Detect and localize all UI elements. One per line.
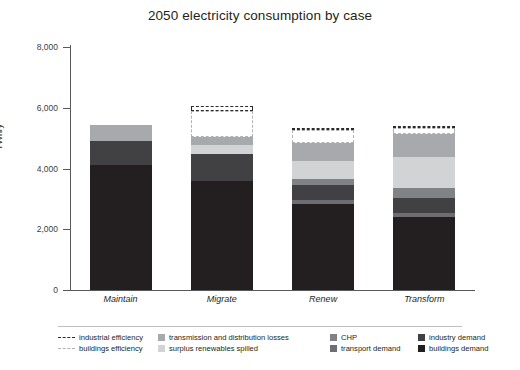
bar-segment[interactable]: [292, 161, 354, 179]
bar-outline-segment[interactable]: [292, 128, 354, 130]
bar-group[interactable]: [292, 47, 354, 290]
bar-outline-segment[interactable]: [393, 128, 455, 133]
y-tick-label: 8,000: [12, 42, 58, 52]
legend-item[interactable]: CHP: [330, 334, 357, 342]
x-category-label: Renew: [292, 294, 354, 304]
legend-swatch-icon: [418, 345, 425, 352]
legend-swatch-icon: [330, 334, 337, 341]
x-category-label: Migrate: [191, 294, 253, 304]
legend-label: buildings demand: [429, 345, 489, 353]
bar-segment[interactable]: [292, 200, 354, 204]
bar-outline-segment[interactable]: [191, 106, 253, 111]
y-tick-mark: [63, 47, 70, 48]
x-category-label: Maintain: [90, 294, 152, 304]
y-tick-mark: [63, 290, 70, 291]
y-tick-mark: [63, 169, 70, 170]
legend-swatch-icon: [158, 334, 165, 341]
bar-segment[interactable]: [292, 185, 354, 201]
bar-segment[interactable]: [393, 217, 455, 290]
y-tick-label: 0: [12, 285, 58, 295]
bar-outline-segment[interactable]: [191, 111, 253, 137]
bar-segment[interactable]: [393, 188, 455, 198]
legend-label: buildings efficiency: [79, 345, 143, 353]
y-tick-label: 6,000: [12, 103, 58, 113]
bar-group[interactable]: [393, 47, 455, 290]
legend-item[interactable]: transport demand: [330, 345, 401, 353]
bar-segment[interactable]: [90, 141, 152, 165]
y-tick-label: 2,000: [12, 224, 58, 234]
bar-segment[interactable]: [191, 137, 253, 145]
bar-segment[interactable]: [191, 145, 253, 154]
legend-item[interactable]: surplus renewables spilled: [158, 345, 258, 353]
bar-segment[interactable]: [292, 143, 354, 161]
bar-segment[interactable]: [90, 125, 152, 140]
legend-label: transport demand: [341, 345, 401, 353]
bar-segment[interactable]: [393, 157, 455, 188]
bar-group[interactable]: [90, 47, 152, 290]
bar-segment[interactable]: [191, 181, 253, 290]
legend-swatch-icon: [418, 334, 425, 341]
bar-segment[interactable]: [191, 154, 253, 181]
y-tick-mark: [63, 108, 70, 109]
chart-container: 2050 electricity consumption by case TWh…: [0, 0, 520, 370]
bar-segment[interactable]: [292, 204, 354, 290]
plot-area: [70, 47, 475, 290]
legend-item[interactable]: buildings demand: [418, 345, 489, 353]
caption-strip: [0, 360, 520, 370]
y-tick-mark: [63, 229, 70, 230]
x-axis-line: [70, 290, 475, 291]
y-axis-tick-labels: 02,0004,0006,0008,000: [8, 0, 58, 370]
legend-label: transmission and distribution losses: [169, 334, 289, 342]
bar-segment[interactable]: [393, 213, 455, 217]
legend-item[interactable]: transmission and distribution losses: [158, 334, 289, 342]
legend-dashed-line-icon: [58, 348, 75, 349]
legend-label: industry demand: [429, 334, 485, 342]
legend-item[interactable]: buildings efficiency: [58, 345, 143, 353]
legend-label: CHP: [341, 334, 357, 342]
bar-group[interactable]: [191, 47, 253, 290]
bar-segment[interactable]: [393, 134, 455, 157]
legend-divider: [58, 326, 462, 327]
bar-segment[interactable]: [292, 179, 354, 185]
bar-segment[interactable]: [393, 198, 455, 213]
y-axis-title: TWh/y: [0, 124, 4, 150]
legend-swatch-icon: [158, 345, 165, 352]
bar-outline-segment[interactable]: [393, 126, 455, 128]
legend-item[interactable]: industry demand: [418, 334, 485, 342]
legend-item[interactable]: industrial efficiency: [58, 334, 143, 342]
legend-dashed-line-icon: [58, 337, 75, 338]
bar-segment[interactable]: [90, 165, 152, 290]
legend-label: surplus renewables spilled: [169, 345, 258, 353]
y-tick-label: 4,000: [12, 164, 58, 174]
legend-swatch-icon: [330, 345, 337, 352]
legend-label: industrial efficiency: [79, 334, 143, 342]
x-category-label: Transform: [393, 294, 455, 304]
chart-legend: industrial efficiencybuildings efficienc…: [0, 326, 520, 356]
chart-title: 2050 electricity consumption by case: [0, 8, 520, 23]
bar-outline-segment[interactable]: [292, 130, 354, 143]
